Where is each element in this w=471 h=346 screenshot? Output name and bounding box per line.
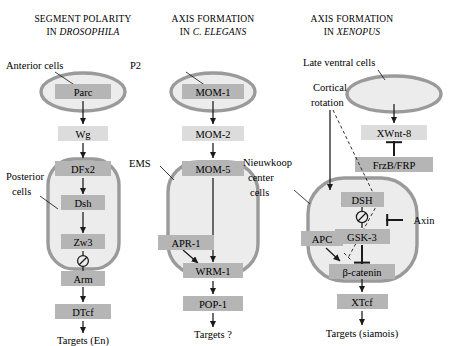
ems-label: EMS	[129, 158, 151, 169]
node-xwnt8-label: XWnt-8	[377, 128, 411, 139]
title-drosophila-line1: SEGMENT POLARITY	[34, 14, 131, 24]
title-celegans-line1: AXIS FORMATION	[172, 14, 255, 24]
node-arm-label: Arm	[73, 274, 92, 285]
node-dsh-upper-label: DSH	[351, 195, 372, 206]
target-celegans: Targets ?	[194, 329, 232, 340]
nieuwkoop-label-line1: Nieuwkoop	[243, 157, 292, 168]
node-mom1-label: MOM-1	[195, 87, 230, 98]
node-zw3-label: Zw3	[73, 237, 92, 248]
posterior-cells-label-line1: Posterior	[6, 171, 44, 182]
node-axin-label: Axin	[414, 215, 436, 226]
node-mom5-label: MOM-5	[195, 164, 230, 175]
cortical-rotation-label-line1: Cortical	[313, 82, 347, 93]
title-drosophila-line2: IN DROSOPHILA	[46, 27, 119, 37]
p2-label: P2	[130, 60, 141, 71]
node-bcatenin-label: β-catenin	[342, 267, 382, 278]
late-ventral-cells-label: Late ventral cells	[303, 57, 375, 68]
posterior-cells-label-line2: cells	[12, 186, 31, 197]
node-frzb-label: FrzB/FRP	[373, 160, 416, 171]
title-celegans-line2: IN C. ELEGANS	[180, 27, 247, 37]
node-dsh-label: Dsh	[75, 198, 93, 209]
node-wrm1-label: WRM-1	[196, 266, 231, 277]
title-xenopus-line2: IN XENOPUS	[324, 27, 381, 37]
nieuwkoop-leader	[294, 190, 310, 204]
pathway-diagram: SEGMENT POLARITY IN DROSOPHILA AXIS FORM…	[0, 0, 471, 346]
node-xtcf-label: XTcf	[351, 297, 373, 308]
nieuwkoop-label-line3: cells	[250, 187, 269, 198]
title-xenopus-line1: AXIS FORMATION	[311, 14, 394, 24]
node-mom2-label: MOM-2	[195, 129, 230, 140]
ems-leader	[160, 166, 174, 180]
target-xenopus: Targets (siamois)	[326, 328, 399, 340]
node-gsk3-label: GSK-3	[347, 232, 377, 243]
node-wg-label: Wg	[75, 129, 91, 140]
figure-canvas: SEGMENT POLARITY IN DROSOPHILA AXIS FORM…	[0, 0, 471, 346]
node-pop1-label: POP-1	[199, 299, 227, 310]
nieuwkoop-label-line2: center	[248, 172, 274, 183]
node-apc-label: APC	[312, 234, 332, 245]
target-drosophila: Targets (En)	[57, 335, 109, 346]
cortical-rotation-label-line2: rotation	[311, 97, 344, 108]
node-parc-label: Parc	[74, 87, 93, 98]
node-apr1-label: APR-1	[171, 238, 200, 249]
node-dfx2-label: DFx2	[71, 164, 95, 175]
anterior-cells-label: Anterior cells	[6, 60, 63, 71]
node-dtcf-label: DTcf	[72, 307, 94, 318]
